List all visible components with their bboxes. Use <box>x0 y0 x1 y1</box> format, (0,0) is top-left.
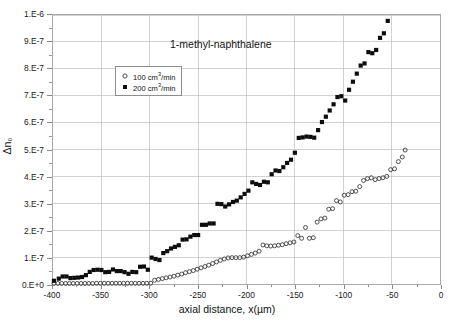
data-point-filled-square <box>130 270 134 274</box>
data-point-open-circle <box>385 174 389 178</box>
data-point-open-circle <box>207 263 211 267</box>
data-point-open-circle <box>377 177 381 181</box>
data-point-filled-square <box>188 235 192 239</box>
data-point-filled-square <box>316 128 320 132</box>
data-point-filled-square <box>289 158 293 162</box>
data-point-open-circle <box>296 234 300 238</box>
data-point-open-circle <box>393 167 397 171</box>
data-point-open-circle <box>164 276 168 280</box>
data-point-open-circle <box>133 281 137 285</box>
x-axis-tick-mark <box>344 285 345 289</box>
data-point-open-circle <box>245 254 249 258</box>
data-point-open-circle <box>253 251 257 255</box>
data-point-open-circle <box>187 270 191 274</box>
data-point-open-circle <box>292 240 296 244</box>
data-point-filled-square <box>347 88 351 92</box>
x-axis-tick-label: -300 <box>141 290 158 300</box>
data-point-open-circle <box>180 272 184 276</box>
data-point-filled-square <box>196 233 200 237</box>
data-point-open-circle <box>354 189 358 193</box>
y-axis-tick-label: 2.E-7 <box>2 226 44 236</box>
data-point-open-circle <box>362 178 366 182</box>
data-point-filled-square <box>204 223 208 227</box>
data-point-open-circle <box>141 281 145 285</box>
data-point-open-circle <box>331 207 335 211</box>
y-axis-tick-label: 7.E-7 <box>2 90 44 100</box>
data-point-filled-square <box>262 180 266 184</box>
data-point-open-circle <box>315 220 319 224</box>
x-axis-tick-label: -150 <box>287 290 304 300</box>
x-axis-tick-label: 0 <box>439 290 444 300</box>
data-point-open-circle <box>342 193 346 197</box>
data-point-filled-square <box>351 80 355 84</box>
data-point-filled-square <box>150 256 154 260</box>
data-point-filled-square <box>320 120 324 124</box>
data-point-open-circle <box>261 243 265 247</box>
data-point-open-circle <box>129 281 133 285</box>
data-point-filled-square <box>359 63 363 67</box>
data-point-open-circle <box>102 281 106 285</box>
chart-legend: 100 cm3/min 200 cm3/min <box>115 66 182 96</box>
x-axis-tick-mark <box>392 285 393 289</box>
data-point-filled-square <box>146 268 150 272</box>
data-point-filled-square <box>173 245 177 249</box>
x-axis-minor-tick <box>319 285 320 287</box>
data-point-open-circle <box>153 278 157 282</box>
data-point-filled-square <box>281 165 285 169</box>
data-point-filled-square <box>161 251 165 255</box>
data-point-filled-square <box>270 172 274 176</box>
data-point-filled-square <box>324 115 328 119</box>
data-point-filled-square <box>192 233 196 237</box>
data-point-open-circle <box>338 200 342 204</box>
legend-label-200-tail: /min <box>161 83 175 92</box>
y-axis-tick-label: 9.E-7 <box>2 36 44 46</box>
data-point-open-circle <box>64 281 68 285</box>
data-point-open-circle <box>334 199 338 203</box>
data-point-open-circle <box>137 281 141 285</box>
x-axis-tick-mark <box>295 285 296 289</box>
data-point-filled-square <box>165 249 169 253</box>
x-axis-minor-tick <box>125 285 126 287</box>
data-point-filled-square <box>382 31 386 35</box>
data-point-open-circle <box>106 281 110 285</box>
data-point-open-circle <box>300 236 304 240</box>
x-axis-tick-label: -250 <box>189 290 206 300</box>
data-point-filled-square <box>52 279 56 283</box>
data-point-filled-square <box>335 95 339 99</box>
data-point-filled-square <box>111 267 115 271</box>
data-point-open-circle <box>323 216 327 220</box>
data-point-filled-square <box>80 275 84 279</box>
data-point-open-circle <box>373 178 377 182</box>
data-point-filled-square <box>123 270 127 274</box>
data-point-open-circle <box>114 281 118 285</box>
data-point-filled-square <box>266 180 270 184</box>
filled-square-marker-icon <box>120 84 130 90</box>
chart-title: 1-methyl-naphthalene <box>170 38 272 50</box>
data-point-open-circle <box>60 281 64 285</box>
data-point-open-circle <box>381 176 385 180</box>
series-100 <box>52 148 407 285</box>
data-point-filled-square <box>212 221 216 225</box>
data-point-filled-square <box>378 36 382 40</box>
data-point-filled-square <box>169 246 173 250</box>
data-point-open-circle <box>172 274 176 278</box>
data-point-open-circle <box>95 281 99 285</box>
legend-label-200: 200 cm3/min <box>133 80 175 94</box>
data-point-open-circle <box>215 260 219 264</box>
x-axis-minor-tick <box>174 285 175 287</box>
data-point-open-circle <box>230 256 234 260</box>
data-point-filled-square <box>208 221 212 225</box>
data-point-open-circle <box>280 243 284 247</box>
data-point-open-circle <box>156 277 160 281</box>
data-point-filled-square <box>107 270 111 274</box>
data-point-open-circle <box>276 243 280 247</box>
open-circle-marker-icon <box>120 73 130 79</box>
data-point-open-circle <box>184 271 188 275</box>
data-point-open-circle <box>168 275 172 279</box>
x-axis-tick-mark <box>198 285 199 289</box>
y-axis-tick-label: 1.E-7 <box>2 253 44 263</box>
data-point-open-circle <box>79 281 83 285</box>
data-point-filled-square <box>181 238 185 242</box>
x-axis-tick-mark <box>247 285 248 289</box>
series-200 <box>52 19 390 283</box>
